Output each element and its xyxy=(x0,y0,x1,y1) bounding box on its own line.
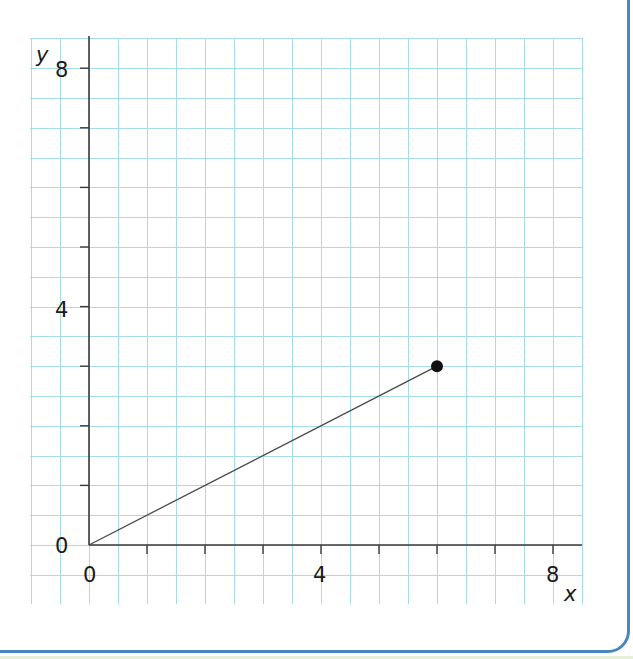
x-tick-label-0: 0 xyxy=(83,563,96,587)
y-axis-label: y xyxy=(35,43,49,67)
y-tick-label-8: 8 xyxy=(55,58,68,82)
axes xyxy=(89,36,582,545)
y-tick-label-0: 0 xyxy=(55,534,68,558)
plot-series xyxy=(89,360,443,545)
x-axis-label: x xyxy=(563,582,577,606)
x-tick-label-4: 4 xyxy=(313,563,326,587)
coordinate-graph: 8 4 0 0 4 8 y x xyxy=(0,0,633,659)
endpoint-dot xyxy=(431,360,443,372)
x-tick-label-8: 8 xyxy=(546,563,559,587)
grid xyxy=(30,38,583,604)
ticks xyxy=(80,68,553,554)
y-tick-label-4: 4 xyxy=(55,298,68,322)
